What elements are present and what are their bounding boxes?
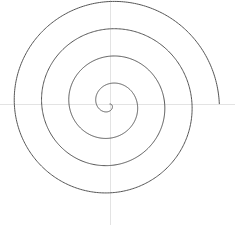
spiral-figure-canvas: [0, 0, 235, 225]
plot-background: [0, 0, 235, 225]
spiral-plot-svg: [0, 0, 235, 225]
